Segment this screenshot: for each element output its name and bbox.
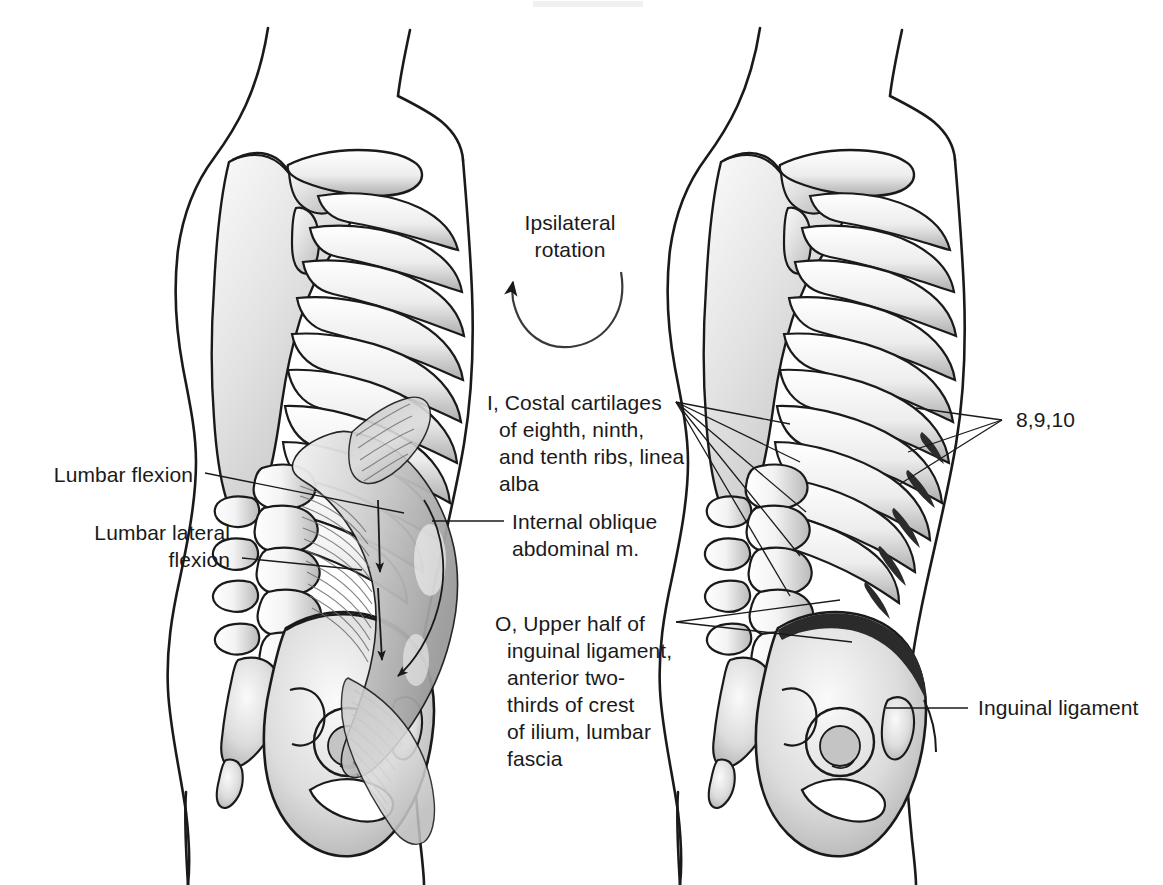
left-figure	[168, 28, 504, 885]
label-ipsilateral-rotation: Ipsilateral rotation	[509, 209, 631, 263]
right-coccyx	[709, 759, 735, 808]
left-coccyx	[217, 759, 243, 808]
label-origin-inguinal-ligament: O, Upper half of inguinal ligament, ante…	[495, 610, 712, 772]
print-registration-mark	[533, 1, 643, 7]
label-lumbar-flexion: Lumbar flexion	[8, 461, 193, 488]
label-internal-oblique-abdominal-muscle: Internal oblique abdominal m.	[512, 508, 722, 562]
label-lumbar-lateral-flexion: Lumbar lateral flexion	[28, 519, 230, 573]
anatomical-plate: Ipsilateral rotation Lumbar flexion Lumb…	[0, 0, 1163, 885]
label-inguinal-ligament: Inguinal ligament	[978, 694, 1163, 721]
muscle-highlight-a	[414, 524, 446, 596]
ipsilateral-rotation-arrow	[512, 272, 622, 347]
label-insertion-costal-cartilages: I, Costal cartilages of eighth, ninth, a…	[487, 389, 699, 497]
label-rib-numbers: 8,9,10	[1016, 406, 1126, 433]
